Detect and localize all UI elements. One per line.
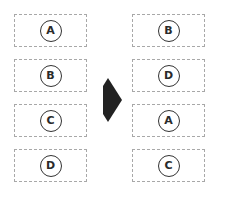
left-item-box: D	[14, 149, 87, 182]
right-item-box: A	[132, 104, 205, 137]
right-item-label: C	[158, 155, 180, 177]
right-item-box: C	[132, 149, 205, 182]
right-item-label: D	[158, 65, 180, 87]
right-item-label: B	[158, 20, 180, 42]
right-item-box: D	[132, 59, 205, 92]
left-item-label: A	[40, 20, 62, 42]
right-item-box: B	[132, 14, 205, 47]
right-arrow-icon	[100, 74, 124, 126]
left-item-label: D	[40, 155, 62, 177]
left-item-box: B	[14, 59, 87, 92]
left-item-box: A	[14, 14, 87, 47]
right-item-label: A	[158, 110, 180, 132]
left-item-box: C	[14, 104, 87, 137]
left-item-label: C	[40, 110, 62, 132]
left-item-label: B	[40, 65, 62, 87]
